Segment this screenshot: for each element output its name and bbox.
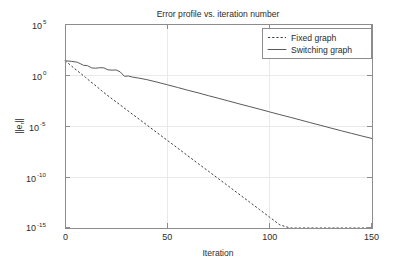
chart-title: Error profile vs. iteration number xyxy=(157,9,280,19)
y-tick-label-1-exponent: 0 xyxy=(43,69,47,76)
legend-label-switching-graph: Switching graph xyxy=(291,45,352,55)
svg-text:||er||: ||er|| xyxy=(14,118,25,134)
y-tick-label-1-mantissa: 10 xyxy=(32,72,42,82)
x-axis-label: Iteration xyxy=(202,248,233,258)
y-tick-label-3-exponent: -10 xyxy=(37,171,47,178)
y-axis-label-base: ||e xyxy=(14,124,24,133)
y-axis-label: ||er|| xyxy=(14,118,25,134)
y-tick-label-0-exponent: 5 xyxy=(43,18,47,25)
x-tick-label-2: 100 xyxy=(262,232,277,242)
error-profile-line-chart: 10 5 10 0 10 -5 10 -10 10 -15 0 50 100 1… xyxy=(0,0,394,272)
legend-label-fixed-graph: Fixed graph xyxy=(291,33,337,43)
chart-figure: 10 5 10 0 10 -5 10 -10 10 -15 0 50 100 1… xyxy=(0,0,394,272)
y-tick-label-3-mantissa: 10 xyxy=(26,174,36,184)
x-tick-label-1: 50 xyxy=(162,232,172,242)
y-axis-label-tail: || xyxy=(14,118,24,122)
y-tick-label-4-mantissa: 10 xyxy=(26,223,36,233)
y-tick-label-2-mantissa: 10 xyxy=(29,123,39,133)
x-tick-label-0: 0 xyxy=(63,232,68,242)
chart-legend[interactable]: Fixed graph Switching graph xyxy=(263,29,372,59)
y-tick-label-4-exponent: -15 xyxy=(37,221,47,228)
x-tick-label-3: 150 xyxy=(364,232,379,242)
y-tick-label-2-exponent: -5 xyxy=(40,120,46,127)
y-tick-label-0-mantissa: 10 xyxy=(32,21,42,31)
